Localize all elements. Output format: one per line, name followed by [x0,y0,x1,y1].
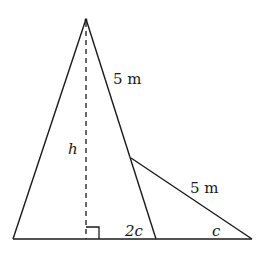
right-side [86,19,156,239]
angle-2c-label: 2c [124,222,144,240]
upper-side-label: 5 m [113,70,142,88]
angle-c-label: c [212,222,221,240]
apex-point [85,19,88,22]
left-side [13,19,86,239]
height-label: h [68,140,78,158]
lower-side-label: 5 m [190,179,219,197]
triangle-diagram: 5 m h 5 m 2c c [0,0,259,261]
right-angle-marker [86,227,99,239]
geometry-figure: 5 m h 5 m 2c c [0,0,259,261]
lower-triangle-side [131,158,252,239]
